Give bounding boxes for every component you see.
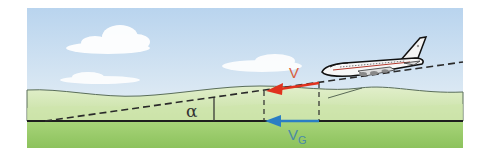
airspeed-label: V bbox=[289, 64, 299, 81]
hill-band bbox=[27, 104, 463, 121]
angle-label: α bbox=[186, 101, 198, 121]
glide-path-diagram: α V VG bbox=[0, 0, 477, 156]
ground bbox=[27, 121, 463, 148]
